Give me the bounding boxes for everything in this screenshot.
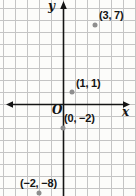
- data-point: [61, 126, 66, 131]
- data-point: [70, 90, 75, 95]
- grid-lines: [0, 0, 136, 196]
- y-axis-label: y: [48, 0, 55, 12]
- point-label: (1, 1): [76, 77, 100, 90]
- point-label: (0, −2): [64, 112, 95, 125]
- grid-and-axes: [0, 0, 136, 196]
- y-axis-up-arrow-icon: [60, 1, 67, 9]
- point-label: (3, 7): [99, 9, 123, 22]
- x-axis-label: x: [122, 106, 129, 118]
- data-point: [37, 191, 42, 196]
- origin-label: O: [52, 104, 62, 116]
- x-axis-left-arrow-icon: [6, 101, 13, 108]
- data-point: [93, 23, 98, 28]
- coordinate-plane: y x O (3, 7)(1, 1)(0, −2)(−2, −8): [0, 0, 136, 196]
- point-label: (−2, −8): [20, 177, 57, 190]
